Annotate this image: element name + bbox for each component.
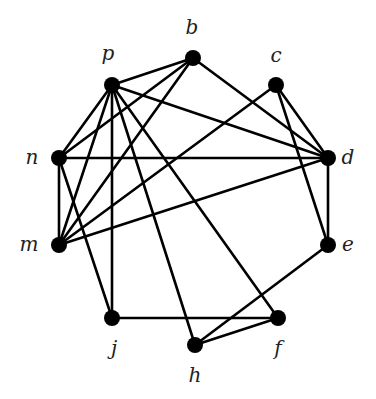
edge-p-n [59,85,112,158]
node-f [270,310,286,326]
node-e [320,237,336,253]
node-h [187,337,203,353]
node-c [268,77,284,93]
node-label-n: n [26,145,39,169]
node-b [185,50,201,66]
node-label-e: e [342,232,354,256]
edge-p-m [59,85,112,245]
graph-diagram: pbcndmejhf [0,0,376,399]
node-d [320,150,336,166]
node-label-m: m [20,232,39,256]
edge-c-m [59,85,276,245]
edge-h-f [195,318,278,345]
node-label-d: d [342,145,355,169]
edge-c-d [276,85,328,158]
edge-p-b [112,58,193,85]
edge-m-d [59,158,328,245]
node-m [51,237,67,253]
edge-b-n [59,58,193,158]
node-label-p: p [102,41,115,65]
edge-c-e [276,85,328,245]
labels-group: pbcndmejhf [20,15,355,387]
node-label-b: b [186,15,199,39]
node-label-h: h [189,363,202,387]
node-label-f: f [272,336,285,360]
node-label-j: j [107,336,117,360]
node-j [104,310,120,326]
edge-e-h [195,245,328,345]
edge-b-d [193,58,328,158]
node-n [51,150,67,166]
node-p [104,77,120,93]
node-label-c: c [270,43,281,67]
edges-group [59,58,328,345]
